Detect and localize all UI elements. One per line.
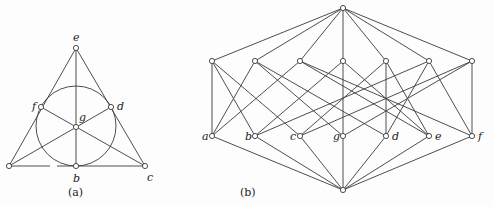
edge-bottom-d <box>343 136 386 190</box>
point-node-label-b: b <box>245 130 252 143</box>
fano-figure: bcdefg (a) abcgdef (b) <box>0 0 494 206</box>
edge-top-L5 <box>343 8 386 61</box>
point-node-c <box>297 133 302 138</box>
point-d <box>108 104 113 109</box>
point-g <box>73 124 78 129</box>
top-node <box>340 5 345 10</box>
line-node-L6 <box>426 58 431 63</box>
point-label-c: c <box>147 171 153 184</box>
fano-line <box>41 107 145 166</box>
point-node-label-e: e <box>435 130 442 143</box>
fano-lattice-diagram: abcgdef <box>202 5 484 192</box>
edge-top-L7 <box>343 8 472 61</box>
point-label-f: f <box>31 100 38 113</box>
edge-L6-f <box>429 61 472 136</box>
edge-bottom-b <box>255 136 343 190</box>
point-node-d <box>383 133 388 138</box>
point-e <box>73 45 78 50</box>
edge-bottom-c <box>300 136 343 190</box>
line-node-L7 <box>469 58 474 63</box>
line-node-L5 <box>383 58 388 63</box>
point-b <box>73 163 78 168</box>
point-node-label-g: g <box>333 130 340 143</box>
point-node-label-f: f <box>477 130 484 143</box>
caption-b: (b) <box>240 186 256 199</box>
point-node-label-a: a <box>202 130 209 143</box>
edge-top-L3 <box>300 8 343 61</box>
point-node-b <box>252 133 257 138</box>
point-label-b: b <box>73 172 80 185</box>
edge-L3-e <box>300 61 429 136</box>
point-label-g: g <box>79 111 86 124</box>
edge-top-L2 <box>255 8 343 61</box>
point-node-label-d: d <box>392 130 399 143</box>
bottom-node <box>340 187 345 192</box>
edge-bottom-a <box>212 136 343 190</box>
point-f <box>38 104 43 109</box>
point-label-d: d <box>117 100 124 113</box>
fano-plane-diagram: bcdefg <box>6 31 153 185</box>
point-node-e <box>426 133 431 138</box>
point-node-label-c: c <box>290 130 296 143</box>
point-label-e: e <box>73 31 80 44</box>
line-node-L1 <box>209 58 214 63</box>
edge-bottom-f <box>343 136 472 190</box>
edge-top-L1 <box>212 8 343 61</box>
caption-a: (a) <box>68 186 83 199</box>
edge-bottom-e <box>343 136 429 190</box>
point-node-g <box>340 133 345 138</box>
fano-line <box>9 107 111 166</box>
edge-top-L6 <box>343 8 429 61</box>
line-node-L2 <box>252 58 257 63</box>
point-node-f <box>469 133 474 138</box>
edge-L2-d <box>255 61 386 136</box>
line-node-L4 <box>340 58 345 63</box>
edge-L7-g <box>343 61 472 136</box>
point-c <box>142 163 147 168</box>
edge-L6-b <box>255 61 429 136</box>
point-a <box>6 163 11 168</box>
line-node-L3 <box>297 58 302 63</box>
point-node-a <box>209 133 214 138</box>
